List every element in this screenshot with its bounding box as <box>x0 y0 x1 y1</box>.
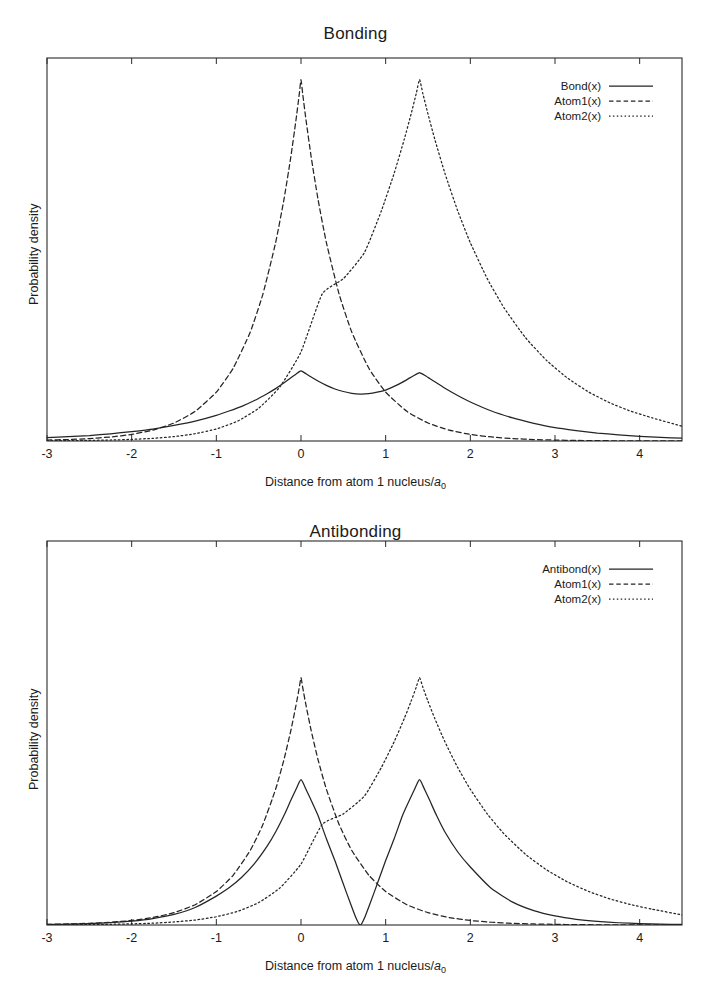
x-axis-ticks: -3-2-101234 <box>41 58 643 461</box>
legend-label: Atom2(x) <box>554 110 601 122</box>
x-tick-label: -3 <box>41 447 52 461</box>
plot-area-antibonding: -3-2-101234Antibond(x)Atom1(x)Atom2(x) <box>0 500 711 1002</box>
legend: Antibond(x)Atom1(x)Atom2(x) <box>542 563 653 605</box>
curve-antibondx <box>47 780 682 925</box>
x-tick-label: 3 <box>552 931 559 945</box>
legend-label: Atom2(x) <box>554 593 601 605</box>
x-tick-label: 2 <box>467 931 474 945</box>
series-group <box>47 678 682 925</box>
y-axis-label-bonding: Probability density <box>27 204 41 305</box>
curve-atom1x <box>47 80 682 441</box>
chart-bonding: Bonding -3-2-101234Bond(x)Atom1(x)Atom2(… <box>0 0 711 500</box>
x-axis-ticks: -3-2-101234 <box>41 541 643 945</box>
x-tick-label: 4 <box>636 447 643 461</box>
x-axis-label-subscript: 0 <box>441 965 446 975</box>
curve-atom2x <box>47 80 682 441</box>
curve-atom2x <box>47 678 682 925</box>
plot-area-bonding: -3-2-101234Bond(x)Atom1(x)Atom2(x) <box>0 0 711 500</box>
x-axis-label-text: Distance from atom 1 nucleus/ <box>265 959 434 973</box>
curve-atom1x <box>47 678 682 925</box>
x-tick-label: -2 <box>126 931 137 945</box>
x-axis-label-antibonding: Distance from atom 1 nucleus/a0 <box>0 959 711 975</box>
legend-label: Antibond(x) <box>542 563 601 575</box>
x-tick-label: -1 <box>211 447 222 461</box>
x-axis-label-symbol: a <box>434 959 441 973</box>
x-tick-label: 0 <box>298 931 305 945</box>
curve-bondx <box>47 371 682 438</box>
x-tick-label: 4 <box>636 931 643 945</box>
y-axis-label-antibonding: Probability density <box>27 689 41 790</box>
x-tick-label: 0 <box>298 447 305 461</box>
legend-label: Atom1(x) <box>554 578 601 590</box>
x-tick-label: 1 <box>382 931 389 945</box>
legend-label: Bond(x) <box>561 80 601 92</box>
legend-label: Atom1(x) <box>554 95 601 107</box>
x-axis-label-subscript: 0 <box>441 481 446 491</box>
x-tick-label: 2 <box>467 447 474 461</box>
x-tick-label: -2 <box>126 447 137 461</box>
x-tick-label: 1 <box>382 447 389 461</box>
x-axis-label-symbol: a <box>434 475 441 489</box>
x-axis-label-text: Distance from atom 1 nucleus/ <box>265 475 434 489</box>
series-group <box>47 80 682 441</box>
x-tick-label: 3 <box>552 447 559 461</box>
x-tick-label: -3 <box>41 931 52 945</box>
chart-antibonding: Antibonding -3-2-101234Antibond(x)Atom1(… <box>0 500 711 1002</box>
x-tick-label: -1 <box>211 931 222 945</box>
x-axis-label-bonding: Distance from atom 1 nucleus/a0 <box>0 475 711 491</box>
legend: Bond(x)Atom1(x)Atom2(x) <box>554 80 653 122</box>
